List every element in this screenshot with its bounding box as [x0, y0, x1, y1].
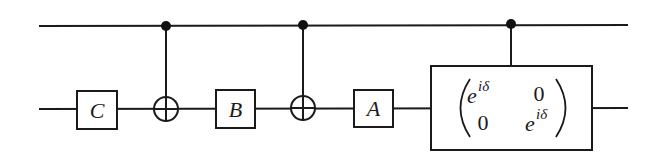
matrix-m00-base: e — [467, 83, 477, 108]
matrix-m11-base: e — [525, 111, 535, 136]
phase-matrix-box — [431, 66, 592, 150]
controlled-phase-gate: e iδ 0 0 e iδ — [431, 19, 592, 150]
gate-a-label: A — [365, 96, 381, 121]
matrix-m00-sup: iδ — [478, 78, 490, 94]
quantum-circuit-diagram: C B A e iδ 0 0 — [0, 0, 659, 159]
control-dot-icon — [506, 19, 516, 29]
matrix-m01: 0 — [534, 81, 545, 106]
cnot-gate-1 — [154, 21, 178, 121]
control-qubit-wire — [39, 25, 628, 26]
cnot-gate-2 — [291, 20, 315, 120]
gate-b-label: B — [229, 97, 242, 122]
matrix-m10: 0 — [478, 110, 489, 135]
control-dot-icon — [161, 21, 171, 31]
gate-a: A — [354, 90, 393, 127]
control-dot-icon — [298, 20, 308, 30]
gate-b: B — [216, 90, 255, 128]
gate-c: C — [77, 91, 117, 129]
matrix-m11-sup: iδ — [536, 106, 548, 122]
gate-c-label: C — [90, 98, 105, 123]
